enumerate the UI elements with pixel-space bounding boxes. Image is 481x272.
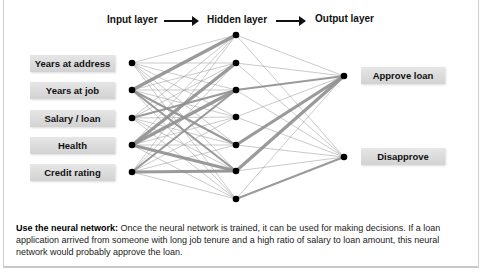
output-layer-title: Output layer <box>315 13 374 24</box>
input-node <box>129 142 136 149</box>
network-edge <box>132 172 236 199</box>
input-label-salary-loan: Salary / loan <box>30 110 115 127</box>
hidden-layer-title: Hidden layer <box>207 14 267 25</box>
hidden-node <box>233 142 240 149</box>
hidden-node <box>233 32 240 39</box>
hidden-node <box>233 60 240 67</box>
output-label-approve-loan: Approve loan <box>361 67 445 84</box>
hidden-node <box>233 114 240 121</box>
input-node <box>129 169 136 176</box>
network-edge <box>132 35 236 90</box>
network-edge <box>132 171 236 172</box>
network-edge <box>132 117 236 172</box>
arrow-icon <box>276 20 301 22</box>
input-node <box>129 87 136 94</box>
input-label-credit-rating: Credit rating <box>30 164 115 181</box>
network-nodes <box>129 32 348 203</box>
input-layer-title: Input layer <box>107 14 158 25</box>
network-edge <box>236 35 344 157</box>
network-edge <box>236 76 344 199</box>
input-node <box>129 60 136 67</box>
input-label-health: Health <box>30 137 115 154</box>
input-label-years-at-job: Years at job <box>30 82 115 99</box>
output-label-disapprove: Disapprove <box>361 148 445 165</box>
hidden-node <box>233 87 240 94</box>
network-edge <box>236 76 344 171</box>
caption: Use the neural network: Once the neural … <box>16 222 466 258</box>
caption-title: Use the neural network: <box>16 223 118 233</box>
input-label-years-at-address: Years at address <box>30 55 115 72</box>
output-node <box>341 154 348 161</box>
input-node <box>129 115 136 122</box>
output-node <box>341 73 348 80</box>
network-edge <box>132 35 236 63</box>
hidden-node <box>233 196 240 203</box>
arrow-icon <box>164 20 194 22</box>
hidden-node <box>233 168 240 175</box>
network-edge <box>236 157 344 199</box>
